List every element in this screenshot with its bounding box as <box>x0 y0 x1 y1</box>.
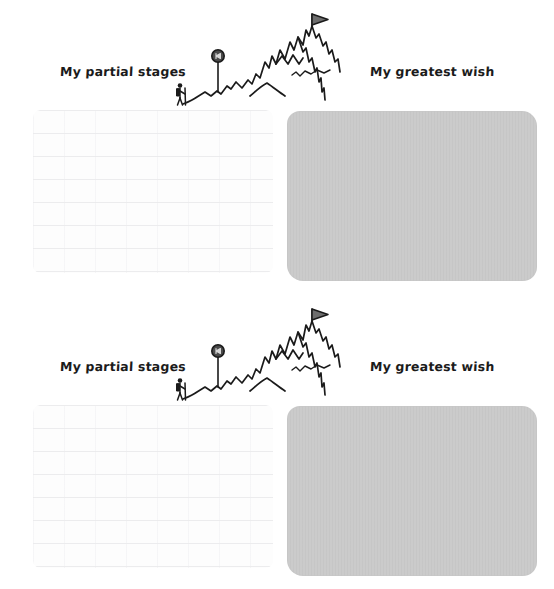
mountain-with-summit-flag-illustration <box>172 307 344 403</box>
hiker-leg-back <box>180 393 183 400</box>
snow-line-squiggle <box>292 365 330 371</box>
worksheet-section-2: My partial stages My g <box>0 295 554 589</box>
summit-flag-pennant <box>312 14 328 25</box>
partial-stages-heading: My partial stages <box>60 359 187 374</box>
foreground-hill-path <box>250 378 285 391</box>
partial-stages-heading: My partial stages <box>60 64 187 79</box>
hiker-head <box>178 83 183 88</box>
hiker-head <box>178 378 183 383</box>
mountain-with-summit-flag-illustration <box>172 12 344 108</box>
hiker-trekking-pole <box>185 88 186 105</box>
mountain-right-slope-path <box>312 321 340 367</box>
greatest-wish-heading: My greatest wish <box>370 64 495 79</box>
mountain-front-slope-path <box>298 332 325 395</box>
hiker-leg-back <box>180 98 183 105</box>
partial-stages-writing-area[interactable] <box>33 110 273 273</box>
partial-stages-writing-area[interactable] <box>33 405 273 568</box>
hiker-backpack <box>177 384 180 391</box>
summit-flag-pennant <box>312 309 328 320</box>
hiker-trekking-pole <box>185 383 186 400</box>
mountain-inner-ridge-path <box>276 350 303 359</box>
worksheet-section-1: My partial stages <box>0 0 554 294</box>
greatest-wish-drawing-box[interactable] <box>287 406 537 576</box>
mountain-front-slope-path <box>298 37 325 100</box>
mountain-inner-ridge-path <box>276 55 303 64</box>
snow-line-squiggle <box>292 70 330 76</box>
mountain-ridge-path <box>183 26 312 104</box>
hiker-stick-figure <box>177 378 186 400</box>
greatest-wish-heading: My greatest wish <box>370 359 495 374</box>
mountain-right-slope-path <box>312 26 340 72</box>
mountain-ridge-path <box>183 321 312 399</box>
foreground-hill-path <box>250 83 285 96</box>
hiker-stick-figure <box>177 83 186 105</box>
hiker-backpack <box>177 89 180 96</box>
greatest-wish-drawing-box[interactable] <box>287 111 537 281</box>
